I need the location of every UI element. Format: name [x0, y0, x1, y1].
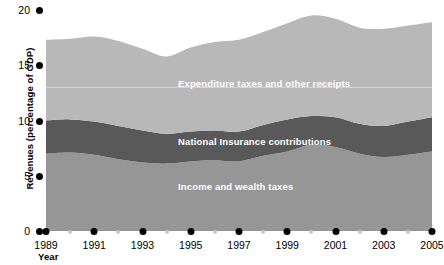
y-tick-dot: [36, 62, 43, 69]
y-tick-20: 20: [0, 4, 46, 16]
y-tick-dot: [36, 118, 43, 125]
x-tick-label-2005: 2005: [420, 239, 443, 251]
x-tick-dot-2003: [380, 228, 387, 235]
y-tick-5: 5: [0, 170, 46, 182]
plot-area: [46, 10, 432, 231]
x-minor-dot-2002: [358, 230, 362, 234]
x-tick-dot-1997: [236, 228, 243, 235]
x-tick-dot-1999: [284, 228, 291, 235]
band-label-income-wealth-taxes: Income and wealth taxes: [178, 181, 293, 192]
x-tick-dot-1991: [91, 228, 98, 235]
x-tick-label-1999: 1999: [276, 239, 299, 251]
x-minor-dot-1996: [213, 230, 217, 234]
x-tick-label-1993: 1993: [131, 239, 154, 251]
x-tick-dot-1995: [187, 228, 194, 235]
y-tick-dot: [36, 7, 43, 14]
y-tick-15: 15: [0, 59, 46, 71]
x-minor-dot-2000: [309, 230, 313, 234]
y-tick-10: 10: [0, 115, 46, 127]
y-tick-label: 15: [18, 59, 30, 71]
x-minor-dot-1992: [116, 230, 120, 234]
x-tick-label-1989: 1989: [34, 239, 57, 251]
area-band-expenditure-taxes-and-other-receipts: [46, 15, 432, 133]
x-tick-label-1991: 1991: [83, 239, 106, 251]
x-tick-dot-1989: [43, 228, 50, 235]
y-tick-dot: [36, 173, 43, 180]
x-tick-label-1995: 1995: [179, 239, 202, 251]
area-series-svg: [46, 10, 432, 231]
x-minor-dot-2004: [406, 230, 410, 234]
x-tick-dot-2001: [332, 228, 339, 235]
x-tick-dot-1993: [139, 228, 146, 235]
band-label-national-insurance: National Insurance contributions: [178, 136, 331, 147]
x-axis-title: Year: [38, 251, 58, 262]
x-tick-label-2003: 2003: [372, 239, 395, 251]
x-tick-dot-2005: [429, 228, 436, 235]
x-tick-label-1997: 1997: [227, 239, 250, 251]
x-tick-label-2001: 2001: [324, 239, 347, 251]
y-tick-0: 0: [0, 225, 46, 237]
x-minor-dot-1998: [261, 230, 265, 234]
x-minor-dot-1990: [68, 230, 72, 234]
y-tick-label: 20: [18, 4, 30, 16]
y-tick-label: 0: [24, 225, 30, 237]
x-minor-dot-1994: [165, 230, 169, 234]
y-tick-label: 10: [18, 115, 30, 127]
y-tick-label: 5: [24, 170, 30, 182]
band-label-expenditure-taxes: Expenditure taxes and other receipts: [178, 78, 350, 89]
